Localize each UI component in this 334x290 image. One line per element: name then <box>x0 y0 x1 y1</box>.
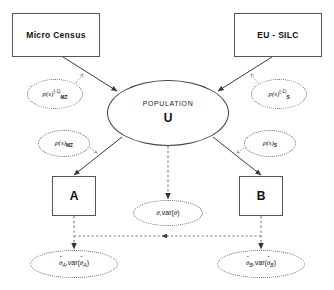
estimator-box-a-label: A <box>70 189 79 203</box>
diagram-canvas: Micro Census EU - SILC POPULATION U p(s)… <box>0 0 334 290</box>
weight-direct-s-label: p(s)S <box>263 139 277 148</box>
population-label: POPULATION <box>143 100 194 109</box>
weight-ellipse-inverse-s[interactable]: p(s)(-1)S <box>251 79 307 109</box>
population-symbol: U <box>164 111 173 126</box>
weight-ellipse-direct-s[interactable]: p(s)S <box>244 130 296 157</box>
source-box-eu-silc[interactable]: EU - SILC <box>234 13 322 57</box>
source-box-micro-census-label: Micro Census <box>26 30 85 40</box>
estimator-box-a[interactable]: A <box>52 176 96 216</box>
output-population-estimate-label: θ,var(θ) <box>156 209 179 217</box>
estimator-box-b[interactable]: B <box>239 176 283 216</box>
output-ellipse-estimate-b[interactable]: θB,var(θB) <box>217 250 305 278</box>
source-box-micro-census[interactable]: Micro Census <box>12 13 100 57</box>
weight-ellipse-inverse-mz[interactable]: p(s)(-1)MZ <box>27 79 83 109</box>
output-estimate-a-label: θA,var(θA) <box>59 259 89 268</box>
output-ellipse-population-estimate[interactable]: θ,var(θ) <box>133 200 203 226</box>
output-ellipse-estimate-a[interactable]: θA,var(θA) <box>30 250 118 278</box>
weight-inverse-s-label: p(s)(-1)S <box>268 89 289 100</box>
weight-direct-mz-label: p(s)MZ <box>55 139 73 148</box>
source-box-eu-silc-label: EU - SILC <box>257 30 298 40</box>
output-estimate-b-label: θB,var(θB) <box>246 259 276 268</box>
population-ellipse[interactable]: POPULATION U <box>107 80 229 146</box>
weight-inverse-mz-label: p(s)(-1)MZ <box>43 89 68 100</box>
weight-ellipse-direct-mz[interactable]: p(s)MZ <box>38 130 90 157</box>
estimator-box-b-label: B <box>257 189 266 203</box>
